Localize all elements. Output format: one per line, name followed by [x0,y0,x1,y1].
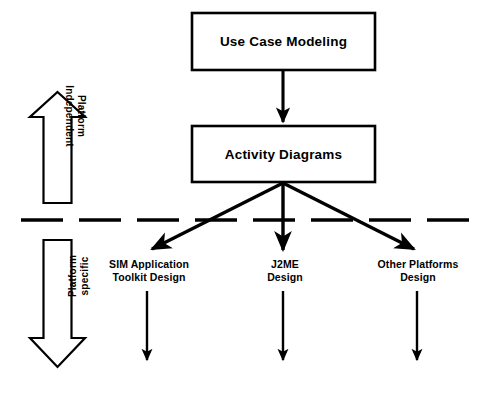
branch-arrow-to-other [283,183,414,249]
band-independent-line2: Independent [64,73,76,159]
leaf-label-j2me-design: J2ME Design [235,258,335,284]
leaf-sim-line2: Toolkit Design [79,271,219,284]
band-specific-line1: Platform [67,237,79,315]
band-specific-line2: specific [79,237,91,315]
branch-arrow-to-sim [152,183,283,249]
box-use-case-modeling-label: Use Case Modeling [192,13,375,70]
leaf-other-line2: Design [353,271,483,284]
band-independent-line1: Platform [76,73,88,159]
band-label-platform-specific: Platform specific [67,237,83,315]
leaf-label-sim-application-toolkit-design: SIM Application Toolkit Design [79,258,219,284]
leaf-sim-line1: SIM Application [79,258,219,271]
leaf-j2me-line1: J2ME [235,258,335,271]
box-activity-diagrams-label: Activity Diagrams [192,126,375,182]
leaf-label-other-platforms-design: Other Platforms Design [353,258,483,284]
leaf-j2me-line2: Design [235,271,335,284]
band-label-platform-independent: Platform Independent [71,73,87,159]
diagram-canvas: Use Case Modeling Activity Diagrams SIM … [0,0,493,393]
leaf-other-line1: Other Platforms [353,258,483,271]
